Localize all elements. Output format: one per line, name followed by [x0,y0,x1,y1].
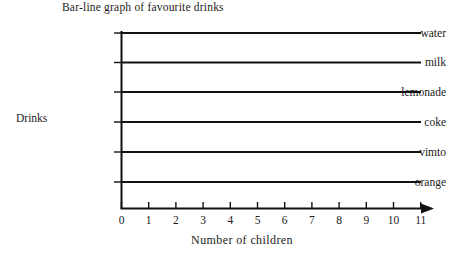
x-axis-arrow-icon [421,204,434,214]
plot-area: Drinks water milk lemonade coke vimto or… [0,0,452,263]
x-tick-label-5: 5 [247,214,269,226]
bar-line-graph: Bar-line graph of favourite drinks Drink… [0,0,452,263]
bar-lines [122,33,422,182]
x-tick-label-3: 3 [192,214,214,226]
x-tick-label-10: 10 [383,214,405,226]
x-tick-label-2: 2 [165,214,187,226]
x-tick-label-8: 8 [328,214,350,226]
x-tick-label-9: 9 [355,214,377,226]
x-axis-label-wrapper: Number of children [0,233,452,248]
x-tick-label-7: 7 [301,214,323,226]
y-axis-ticks [114,33,122,182]
x-axis-label: Number of children [191,233,293,248]
x-tick-label-6: 6 [274,214,296,226]
x-tick-label-1: 1 [138,214,160,226]
x-tick-label-0: 0 [111,214,133,226]
x-tick-label-4: 4 [219,214,241,226]
x-tick-label-11: 11 [410,214,432,226]
